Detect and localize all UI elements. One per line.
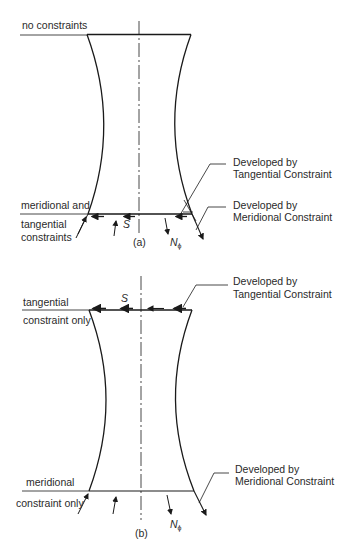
label-constraint-only-b-top: constraint only xyxy=(23,314,91,326)
normal-subscript-a: ϕ xyxy=(178,242,182,249)
figure-canvas: no constraints meridional and tangential… xyxy=(0,0,342,542)
callout-tangential-a-line2: Tangential Constraint xyxy=(233,168,332,180)
caption-b: (b) xyxy=(135,527,148,539)
callout-tangential-b-line1: Developed by xyxy=(233,275,297,287)
label-tangential: tangential xyxy=(21,218,67,230)
label-constraints: constraints xyxy=(21,231,72,243)
symbol-normal-force-b: Nϕ xyxy=(170,518,182,534)
callout-meridional-b-line1: Developed by xyxy=(235,463,299,475)
label-no-constraints: no constraints xyxy=(22,19,87,31)
hyperboloid-shell-diagram xyxy=(0,0,342,542)
callout-tangential-b-line2: Tangential Constraint xyxy=(233,288,332,300)
symbol-normal-force-a: Nϕ xyxy=(170,236,182,252)
callout-meridional-b-line2: Meridional Constraint xyxy=(235,475,334,487)
label-meridional-and: meridional and xyxy=(21,199,90,211)
normal-subscript-b: ϕ xyxy=(178,524,182,531)
label-meridional-b: meridional xyxy=(26,476,74,488)
normal-symbol-a: N xyxy=(170,236,178,248)
callout-meridional-a-line2: Meridional Constraint xyxy=(233,211,332,223)
callout-meridional-a-line1: Developed by xyxy=(233,199,297,211)
symbol-shear-a: S xyxy=(123,218,130,230)
callout-tangential-a-line1: Developed by xyxy=(233,156,297,168)
label-constraint-only-b-bottom: constraint only xyxy=(16,497,84,509)
symbol-shear-b: S xyxy=(121,292,128,304)
caption-a: (a) xyxy=(133,236,146,248)
label-tangential-b: tangential xyxy=(23,296,69,308)
normal-symbol-b: N xyxy=(170,518,178,530)
